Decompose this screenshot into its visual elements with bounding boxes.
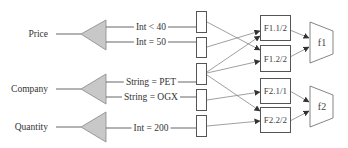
- filter-box-2: [197, 38, 207, 58]
- condition-label-int-lt-40: Int < 40: [134, 21, 168, 33]
- filter-box-3: [197, 64, 207, 85]
- filter-box-1: [197, 12, 207, 33]
- input-label-quantity: Quantity: [0, 121, 48, 133]
- function-label-f1: f1: [318, 37, 326, 49]
- filter-box-4: [197, 90, 207, 111]
- condition-label-int-eq-50: Int = 50: [134, 36, 168, 48]
- fragment-box-f1-1: F1.1/2: [260, 15, 291, 41]
- fragment-box-f1-2: F1.2/2: [260, 45, 291, 72]
- function-label-f2: f2: [318, 101, 326, 113]
- filter-box-5: [197, 116, 207, 137]
- condition-label-int-eq-200: Int = 200: [132, 122, 171, 134]
- splitter-triangle-quantity: [81, 112, 106, 142]
- fragment-box-f2-1: F2.1/1: [260, 78, 291, 104]
- condition-label-string-ogx: String = OGX: [122, 91, 180, 103]
- splitter-triangle-price: [81, 20, 106, 50]
- splitter-triangle-company: [81, 74, 106, 104]
- condition-label-string-pet: String = PET: [124, 76, 178, 88]
- input-label-company: Company: [0, 83, 48, 95]
- filter-diagram: Price Company Quantity Int < 40 Int = 50…: [0, 0, 348, 148]
- fragment-box-f2-2: F2.2/2: [260, 107, 291, 133]
- input-label-price: Price: [0, 28, 48, 40]
- diagram-lines: [0, 0, 348, 148]
